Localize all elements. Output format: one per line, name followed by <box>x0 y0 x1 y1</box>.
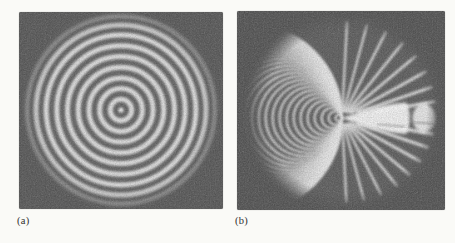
panel-a-photo <box>19 12 223 209</box>
interference-figure: (a) (b) <box>0 0 455 243</box>
panel-b-label: (b) <box>235 215 248 227</box>
panel-b-interferogram <box>237 11 445 210</box>
scanned-page: (a) (b) <box>0 0 455 243</box>
film-grain-dark <box>237 11 445 210</box>
panel-a-label: (a) <box>17 215 30 227</box>
panel-b-photo <box>237 11 445 210</box>
film-grain-dark <box>19 12 223 209</box>
panel-a-interferogram <box>19 12 223 209</box>
